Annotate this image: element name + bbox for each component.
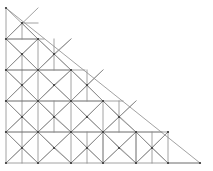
- mesh-node: [118, 147, 120, 149]
- mesh-node: [5, 162, 7, 164]
- mesh-node: [70, 69, 72, 71]
- mesh-node: [5, 7, 7, 9]
- mesh-node: [37, 69, 39, 71]
- mesh-node: [21, 53, 23, 55]
- mesh-node: [5, 131, 7, 133]
- mesh-node: [167, 162, 169, 164]
- mesh-node: [86, 84, 88, 86]
- mesh-node: [53, 147, 55, 149]
- mesh-node: [53, 53, 55, 55]
- mesh-node: [167, 131, 169, 133]
- mesh-node: [37, 162, 39, 164]
- mesh-node: [70, 131, 72, 133]
- mesh-node: [37, 100, 39, 102]
- mesh-node: [5, 100, 7, 102]
- mesh-node: [86, 116, 88, 118]
- mesh-node: [21, 84, 23, 86]
- mesh-node: [53, 116, 55, 118]
- mesh-node: [102, 131, 104, 133]
- mesh-node: [37, 38, 39, 40]
- figure-background: [0, 0, 213, 171]
- mesh-node: [5, 38, 7, 40]
- mesh-node: [102, 162, 104, 164]
- mesh-node: [135, 162, 137, 164]
- mesh-node: [135, 131, 137, 133]
- mesh-node: [5, 69, 7, 71]
- mesh-node: [21, 147, 23, 149]
- mesh-node: [21, 22, 23, 24]
- mesh-node: [37, 131, 39, 133]
- mesh-node: [70, 162, 72, 164]
- mesh-node: [70, 100, 72, 102]
- mesh-node: [118, 116, 120, 118]
- mesh-node: [102, 100, 104, 102]
- mesh-figure: [0, 0, 213, 171]
- mesh-node: [21, 116, 23, 118]
- mesh-node: [86, 147, 88, 149]
- mesh-node: [151, 147, 153, 149]
- mesh-canvas: [0, 0, 213, 171]
- mesh-node: [199, 162, 201, 164]
- mesh-node: [53, 84, 55, 86]
